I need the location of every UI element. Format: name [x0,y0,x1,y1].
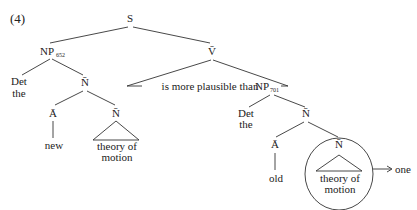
node-nbar-left: N̄ [81,76,89,88]
node-abar-right: Ā [271,138,279,150]
edge-nbar-abar [55,91,83,105]
edge-s-vbar [133,27,210,43]
node-det-left: Det [11,75,27,87]
triangle-left [93,121,139,140]
words-motion-left: motion [101,151,133,163]
example-number: (4) [10,11,25,26]
syntax-tree-diagram: (4) S NP 652 Det the N̄ Ā new N̄ theory … [0,0,417,210]
svg-text:701: 701 [270,87,279,93]
node-abar-left: Ā [49,107,57,119]
svg-text:NP: NP [40,45,54,57]
word-the-right: the [239,118,253,130]
svg-text:652: 652 [56,52,65,58]
vbar-text: is more plausible than [162,80,259,92]
triangle-right [316,155,362,171]
word-one: one [395,163,411,175]
word-old: old [269,172,284,184]
node-nbar-right: N̄ [302,107,310,119]
node-s: S [127,12,133,24]
edge-np-det [22,59,50,75]
svg-text:NP: NP [255,80,269,92]
edge-nbar-nbar [87,91,115,105]
edge-np701-det [249,95,270,107]
word-the-left: the [12,87,26,99]
node-nbar-inner-right: N̄ [335,138,343,150]
edge-nbar-right-nbar [308,122,338,137]
node-nbar-inner-left: N̄ [112,107,120,119]
word-new: new [45,139,63,151]
edge-nbar-right-abar [276,122,304,137]
edge-s-np [50,27,128,43]
edge-np-nbar [52,59,83,75]
edge-np701-nbar [274,95,305,107]
node-vbar: V̄ [208,45,216,57]
node-np-652: NP 652 [40,45,65,58]
words-motion-right: motion [324,183,356,195]
